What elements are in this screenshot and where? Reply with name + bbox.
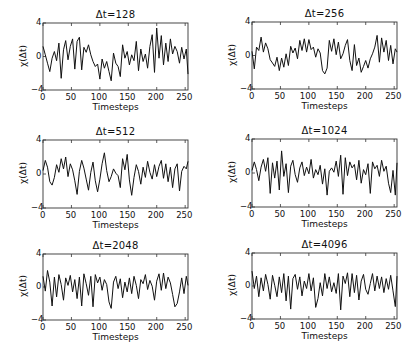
x-tick-label: 250 [385,321,401,331]
x-tick-label: 100 [300,321,316,331]
x-tick-label: 200 [357,321,373,331]
plot-area [0,0,414,351]
panel-title: Δt=4096 [252,239,397,250]
y-tick-label: −4 [240,313,253,323]
series-line [252,271,397,310]
x-tick-label: 150 [328,321,344,331]
y-tick-label: 4 [245,247,250,257]
y-axis-label: χ(Δt) [227,265,237,305]
y-tick-label: 0 [245,280,250,290]
chart-panel: Δt=4096050100150200250−404Timestepsχ(Δt) [0,0,414,351]
x-axis-label: Timesteps [252,331,397,341]
x-tick-label: 50 [274,321,285,331]
